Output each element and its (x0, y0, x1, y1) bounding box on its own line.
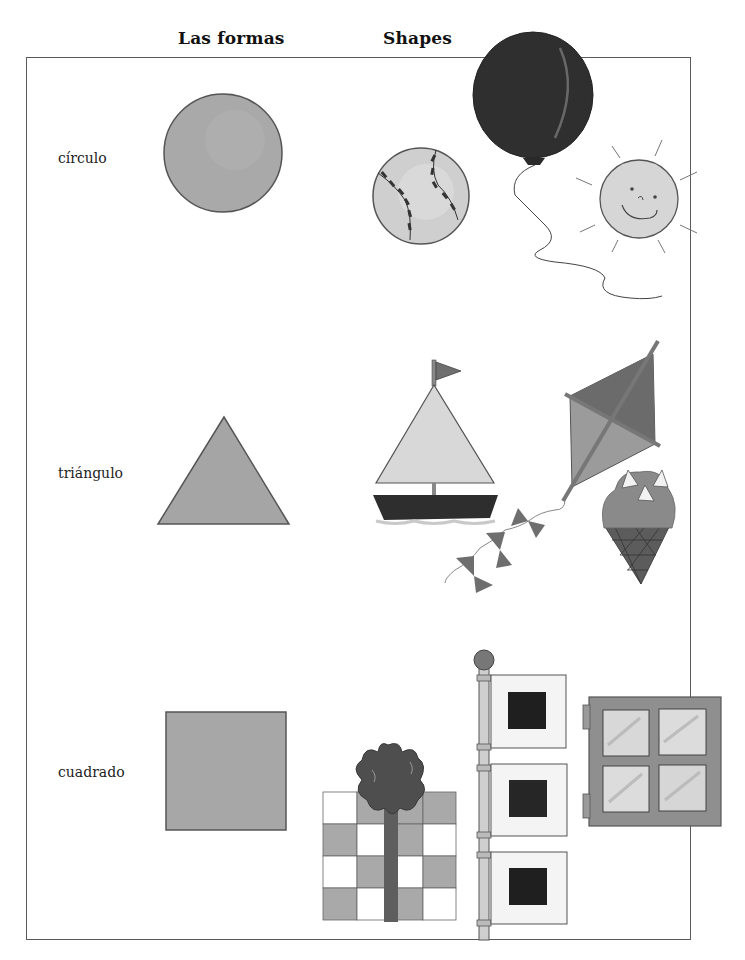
sailboat-icon (373, 360, 498, 524)
sun-icon (576, 140, 697, 253)
illustrations (0, 0, 745, 960)
flags-icon (474, 650, 567, 940)
gift-box-icon (323, 744, 456, 922)
baseball-icon (373, 148, 469, 244)
ice-cream-cone-icon (602, 470, 675, 584)
triangle-shape (158, 417, 289, 524)
window-icon (583, 697, 721, 826)
circle-shape (164, 94, 282, 212)
square-shape (166, 712, 286, 830)
